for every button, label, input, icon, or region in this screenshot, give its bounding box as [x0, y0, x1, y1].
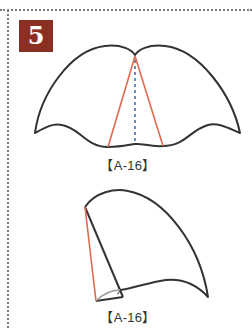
folded-piece-figure [85, 190, 208, 301]
figure-label-folded: 【A-16】 [88, 307, 168, 326]
unfolded-piece-figure [35, 46, 240, 147]
unfolded-piece-outline [35, 46, 240, 147]
figure-label-unfolded: 【A-16】 [88, 155, 168, 174]
flap-bottom-edge [120, 290, 123, 297]
